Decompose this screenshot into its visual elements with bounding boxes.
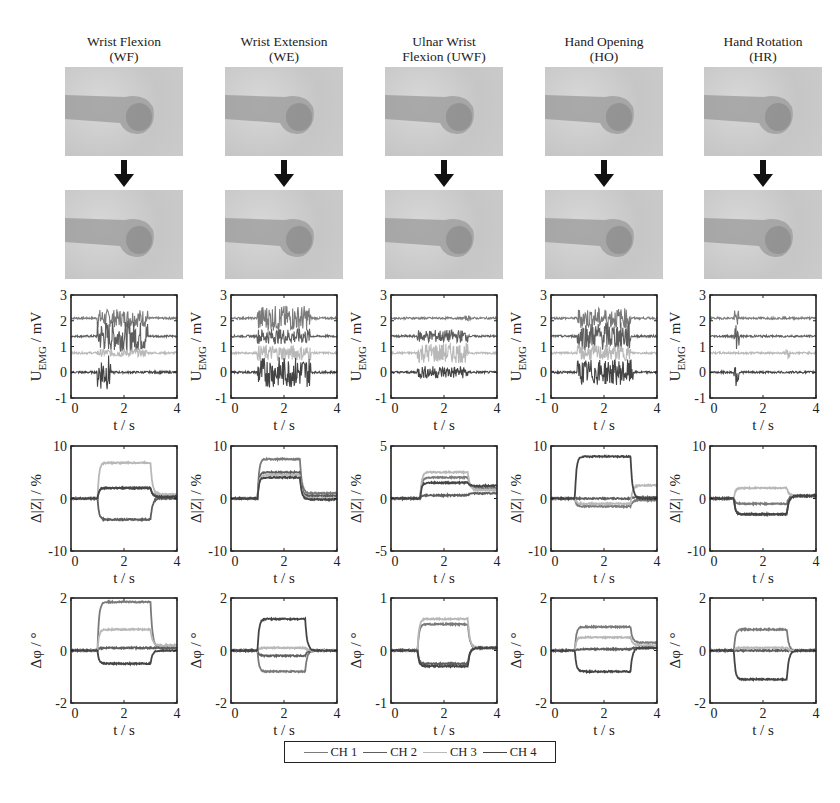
legend-item-ch4: CH 4 [483, 745, 537, 760]
series-ch4 [551, 456, 657, 499]
svg-text:-10: -10 [208, 544, 227, 559]
series-ch1 [391, 316, 497, 321]
svg-text:-2: -2 [55, 696, 67, 711]
svg-text:-10: -10 [48, 544, 67, 559]
title-line-2: (HO) [529, 49, 679, 64]
svg-text:2: 2 [60, 591, 67, 606]
svg-text:4: 4 [813, 706, 820, 721]
svg-text:Δφ / °: Δφ / ° [667, 633, 683, 669]
series-ch4 [71, 356, 177, 390]
title-line-2: Flexion (UWF) [369, 49, 519, 64]
svg-text:t / s: t / s [433, 722, 455, 738]
photo-ho-before [545, 67, 663, 156]
plot-impedance-wf: -10010024t / sΔ|Z| / % [11, 436, 192, 590]
plot-impedance-we: -10010024t / sΔ|Z| / % [171, 436, 352, 590]
svg-text:0: 0 [220, 492, 227, 507]
svg-text:0: 0 [72, 401, 79, 416]
svg-text:UEMG / mV: UEMG / mV [188, 312, 208, 382]
down-arrow-icon [753, 160, 773, 188]
title-line-2: (WF) [49, 49, 199, 64]
plot-phase-we: -202024t / sΔφ / ° [171, 588, 352, 742]
plot-impedance-hr: -10010024t / sΔ|Z| / % [650, 436, 831, 590]
svg-text:t / s: t / s [593, 570, 615, 586]
svg-text:0: 0 [552, 706, 559, 721]
svg-text:t / s: t / s [273, 722, 295, 738]
series-ch1 [71, 309, 177, 327]
svg-text:2: 2 [441, 554, 448, 569]
series-ch1 [231, 306, 337, 331]
legend-item-ch1: CH 1 [304, 745, 358, 760]
plot-phase-uwf: -101024t / sΔφ / ° [331, 588, 512, 742]
series-ch4 [710, 495, 816, 515]
legend-label-ch1: CH 1 [331, 745, 358, 760]
svg-text:0: 0 [60, 644, 67, 659]
svg-text:10: 10 [53, 439, 67, 454]
plot-emg-uwf: -10123024t / sUEMG / mV [331, 285, 512, 437]
photo-we-before [225, 67, 343, 156]
svg-text:t / s: t / s [113, 570, 135, 586]
svg-text:Δ|Z| / %: Δ|Z| / % [188, 474, 204, 523]
photo-uwf-before [385, 67, 503, 156]
title-line-1: Wrist Extension [209, 34, 359, 49]
plot-emg-wf: -10123024t / sUEMG / mV [11, 285, 192, 437]
series-ch3 [551, 345, 657, 360]
svg-text:0: 0 [72, 554, 79, 569]
svg-text:-1: -1 [694, 391, 706, 406]
series-ch2 [710, 325, 816, 349]
down-arrow-icon [114, 160, 134, 188]
series-ch4 [710, 368, 816, 386]
svg-text:2: 2 [281, 554, 288, 569]
photo-ho-after [545, 190, 663, 279]
photo-wf-after [65, 190, 183, 279]
svg-text:0: 0 [392, 401, 399, 416]
svg-text:-10: -10 [687, 544, 706, 559]
photo-uwf-after [385, 190, 503, 279]
plot-phase-wf: -202024t / sΔφ / ° [11, 588, 192, 742]
svg-text:Δφ / °: Δφ / ° [348, 633, 364, 669]
title-line-2: (WE) [209, 49, 359, 64]
svg-text:t / s: t / s [593, 417, 615, 433]
plot-emg-ho: -10123024t / sUEMG / mV [491, 285, 672, 437]
svg-text:2: 2 [601, 401, 608, 416]
series-ch4 [391, 366, 497, 378]
svg-text:2: 2 [281, 401, 288, 416]
svg-text:Δ|Z| / %: Δ|Z| / % [348, 474, 364, 523]
title-line-2: (HR) [688, 49, 838, 64]
svg-text:0: 0 [552, 554, 559, 569]
plot-impedance-ho: -10010024t / sΔ|Z| / % [491, 436, 672, 590]
series-ch2 [231, 329, 337, 344]
series-ch2 [71, 498, 177, 520]
column-title-hr: Hand Rotation(HR) [688, 34, 838, 64]
svg-text:2: 2 [601, 706, 608, 721]
column-title-uwf: Ulnar WristFlexion (UWF) [369, 34, 519, 64]
title-line-1: Wrist Flexion [49, 34, 199, 49]
svg-text:2: 2 [760, 401, 767, 416]
svg-text:0: 0 [392, 706, 399, 721]
svg-text:0: 0 [540, 644, 547, 659]
svg-text:0: 0 [380, 644, 387, 659]
series-ch1 [710, 311, 816, 325]
svg-text:t / s: t / s [752, 722, 774, 738]
svg-text:t / s: t / s [113, 417, 135, 433]
svg-text:Δ|Z| / %: Δ|Z| / % [667, 474, 683, 523]
svg-text:2: 2 [121, 706, 128, 721]
legend-label-ch2: CH 2 [390, 745, 417, 760]
svg-text:2: 2 [760, 554, 767, 569]
title-line-1: Hand Opening [529, 34, 679, 49]
plot-emg-we: -10123024t / sUEMG / mV [171, 285, 352, 437]
photo-we-after [225, 190, 343, 279]
svg-text:-1: -1 [535, 391, 547, 406]
svg-text:0: 0 [711, 401, 718, 416]
svg-text:-1: -1 [375, 391, 387, 406]
legend-line-ch2 [363, 752, 387, 753]
series-ch3 [710, 349, 816, 358]
svg-text:0: 0 [380, 365, 387, 380]
svg-text:0: 0 [220, 644, 227, 659]
svg-text:t / s: t / s [113, 722, 135, 738]
series-ch3 [71, 349, 177, 357]
svg-text:1: 1 [60, 340, 67, 355]
svg-text:0: 0 [699, 365, 706, 380]
series-ch1 [231, 459, 337, 500]
svg-text:0: 0 [711, 706, 718, 721]
svg-text:UEMG / mV: UEMG / mV [348, 312, 368, 382]
